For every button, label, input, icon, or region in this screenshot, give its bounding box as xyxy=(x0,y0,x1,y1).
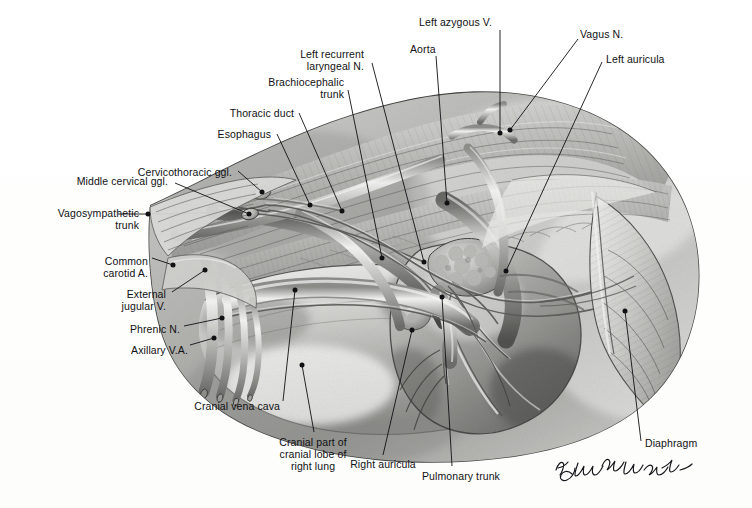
leader-dot-right-auricula xyxy=(410,328,415,333)
label-external-jugular-vein: External jugular V. xyxy=(88,288,166,312)
leader-dot-cranial-part-cranial-lobe-right-lung xyxy=(300,363,305,368)
leader-dot-phrenic-nerve xyxy=(220,316,225,321)
label-phrenic-nerve: Phrenic N. xyxy=(110,323,180,335)
leader-dot-brachiocephalic-trunk xyxy=(380,256,385,261)
figure-canvas: Left azygous V.Vagus N.AortaLeft auricul… xyxy=(0,0,752,508)
leader-dot-thoracic-duct xyxy=(340,209,345,214)
label-aorta: Aorta xyxy=(410,43,460,55)
label-pulmonary-trunk: Pulmonary trunk xyxy=(408,470,514,482)
leader-dot-left-recurrent-laryngeal-nrv xyxy=(422,260,427,265)
leader-dot-diaphragm xyxy=(623,309,628,314)
label-cranial-vena-cava: Cranial vena cava xyxy=(168,400,280,412)
leader-dot-middle-cervical-ggl xyxy=(247,212,252,217)
label-axillary-vein-artery: Axillary V.A. xyxy=(110,344,188,356)
leader-dot-cranial-vena-cava xyxy=(293,288,298,293)
label-left-auricula: Left auricula xyxy=(606,53,686,65)
label-thoracic-duct: Thoracic duct xyxy=(206,107,294,119)
label-common-carotid-artery: Common carotid A. xyxy=(70,255,148,279)
leader-dot-external-jugular-vein xyxy=(203,268,208,273)
label-esophagus: Esophagus xyxy=(199,128,271,140)
leader-dot-left-auricula xyxy=(504,269,509,274)
label-left-azygous-vein: Left azygous V. xyxy=(419,16,519,28)
label-brachiocephalic-trunk: Brachiocephalic trunk xyxy=(230,76,344,100)
leader-dot-vagus-nerve xyxy=(508,128,513,133)
label-middle-cervical-ggl: Middle cervical ggl. xyxy=(40,175,168,187)
leader-dot-esophagus xyxy=(308,203,313,208)
leader-dot-cervicothoracic-ggl xyxy=(260,190,265,195)
leader-dot-aorta xyxy=(445,201,450,206)
leader-dot-left-azygous-vein xyxy=(498,131,503,136)
label-vagus-nerve: Vagus N. xyxy=(580,28,650,40)
leader-dot-vagosympathetic-trunk xyxy=(146,212,151,217)
leader-dot-pulmonary-trunk xyxy=(440,295,445,300)
label-vagosympathetic-trunk: Vagosympathetic trunk xyxy=(27,207,139,231)
leader-dot-common-carotid-artery xyxy=(171,263,176,268)
label-diaphragm: Diaphragm xyxy=(645,437,717,449)
label-left-recurrent-laryngeal-nrv: Left recurrent laryngeal N. xyxy=(240,48,364,72)
anatomical-illustration xyxy=(0,0,752,508)
leader-dot-axillary-vein-artery xyxy=(212,336,217,341)
label-right-auricula: Right auricula xyxy=(338,458,428,470)
